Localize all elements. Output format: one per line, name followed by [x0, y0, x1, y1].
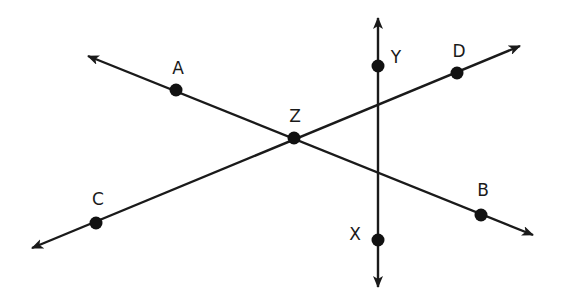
point-X [372, 234, 385, 247]
point-C [90, 217, 103, 230]
line-AB [88, 56, 533, 235]
label-C: C [92, 191, 104, 208]
label-X: X [349, 226, 361, 243]
label-Z: Z [289, 108, 301, 125]
label-D: D [452, 43, 465, 60]
geometry-diagram [0, 0, 563, 304]
label-A: A [172, 60, 184, 77]
line-CD [32, 46, 520, 248]
point-A [170, 84, 183, 97]
point-Y [372, 60, 385, 73]
point-D [451, 67, 464, 80]
label-B: B [477, 182, 489, 199]
point-Z [288, 132, 301, 145]
point-B [475, 209, 488, 222]
label-Y: Y [391, 49, 401, 66]
